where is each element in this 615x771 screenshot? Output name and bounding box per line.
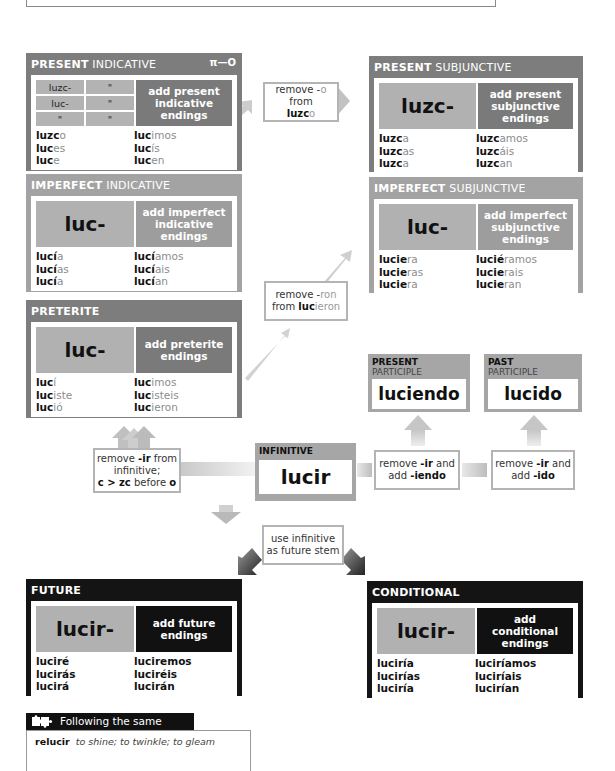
form-tu: luces	[36, 142, 134, 155]
endings-note: add preterite endings	[136, 327, 232, 373]
form-vosotros: lucíais	[134, 263, 232, 276]
form-tu: luzcas	[379, 145, 476, 158]
key-icon: π—O	[210, 57, 236, 68]
form-vosotros: lucierais	[476, 266, 573, 279]
imperfect-subjunctive-panel: IMPERFECT SUBJUNCTIVE luc- add imperfect…	[369, 177, 583, 293]
stem-cell: luc-	[36, 201, 134, 247]
infinitive-panel: INFINITIVE lucir	[255, 443, 356, 501]
puzzle-icon	[31, 715, 53, 728]
stem-cell: lucir-	[377, 608, 475, 654]
conjugation-forms: luzco luces luce lucimos lucís lucen	[36, 129, 232, 167]
form-ellos: lucieran	[476, 278, 573, 291]
form-yo: lucí	[36, 376, 134, 389]
preterite-title: PRETERITE	[31, 304, 237, 322]
stem-cell: lucir-	[36, 606, 134, 652]
form-yo: lucía	[36, 250, 134, 263]
form-nosotros: lucimos	[134, 376, 232, 389]
form-ellos: lucían	[134, 275, 232, 288]
imperfect-subjunctive-title: IMPERFECT SUBJUNCTIVE	[374, 181, 578, 199]
ditto-cell: "	[86, 80, 134, 94]
form-vosotros: lucís	[134, 142, 232, 155]
future-title: FUTURE	[31, 583, 237, 601]
rule-remove-o: remove -o from luzco	[263, 82, 339, 122]
form-ellos: luzcan	[476, 157, 573, 170]
conditional-panel: CONDITIONAL lucir- add conditional endin…	[367, 581, 583, 698]
stem-grid: luzc- " luc- " " "	[36, 80, 134, 126]
rule-future-stem: use infinitive as future stem	[262, 525, 344, 565]
conjugation-forms: luciría lucirías luciría luciríamos luci…	[377, 657, 573, 695]
ditto-cell: "	[86, 112, 134, 126]
ditto-cell: "	[36, 112, 84, 126]
form-nosotros: lucimos	[134, 129, 232, 142]
endings-note: add future endings	[136, 606, 232, 652]
form-yo: luzco	[36, 129, 134, 142]
present-indicative-title: PRESENT INDICATIVE	[31, 57, 237, 75]
form-vosotros: lucisteis	[134, 389, 232, 402]
present-indicative-panel: PRESENT INDICATIVE π—O luzc- " luc- " " …	[26, 53, 242, 171]
form-el: luciera	[379, 278, 476, 291]
form-el: lucía	[36, 275, 134, 288]
list-item: relucir to shine; to twinkle; to gleam	[35, 736, 242, 748]
form-nosotros: luciéramos	[476, 253, 573, 266]
endings-note: add present indicative endings	[136, 80, 232, 126]
rule-remove-ron: remove -ron from lucieron	[264, 281, 348, 321]
stem-cell: luzc-	[379, 83, 476, 129]
form-yo: luciera	[379, 253, 476, 266]
form-nosotros: lucíamos	[134, 250, 232, 263]
form-tu: lucieras	[379, 266, 476, 279]
endings-note: add imperfect indicative endings	[136, 201, 232, 247]
following-pattern-list: relucir to shine; to twinkle; to gleam	[26, 730, 251, 771]
conditional-title: CONDITIONAL	[372, 585, 578, 603]
following-pattern-header: Following the same pattern	[26, 713, 194, 730]
infinitive-word: lucir	[259, 460, 352, 494]
past-participle-panel: PAST PARTICIPLE lucido	[484, 354, 582, 412]
form-el: luce	[36, 154, 134, 167]
ditto-cell: "	[86, 96, 134, 110]
form-nosotros: luzcamos	[476, 132, 573, 145]
form-yo: luzca	[379, 132, 476, 145]
conjugation-forms: luciera lucieras luciera luciéramos luci…	[379, 253, 573, 291]
form-ellos: lucieron	[134, 401, 232, 414]
stem-cell: luc-	[379, 204, 476, 250]
imperfect-indicative-title: IMPERFECT INDICATIVE	[31, 178, 237, 196]
conjugation-forms: luzca luzcas luzca luzcamos luzcáis luzc…	[379, 132, 573, 170]
conjugation-forms: lucí luciste lució lucimos lucisteis luc…	[36, 376, 232, 414]
rule-remove-ir-zc: remove -ir from infinitive; c > zc befor…	[93, 448, 181, 493]
imperfect-indicative-panel: IMPERFECT INDICATIVE luc- add imperfect …	[26, 174, 242, 292]
rule-remove-ir-iendo: remove -ir and add -iendo	[374, 450, 460, 490]
endings-note: add conditional endings	[477, 608, 573, 654]
form-vosotros: luzcáis	[476, 145, 573, 158]
present-subjunctive-panel: PRESENT SUBJUNCTIVE luzc- add present su…	[369, 56, 583, 172]
present-participle-panel: PRESENT PARTICIPLE luciendo	[368, 354, 470, 412]
form-tu: luciste	[36, 389, 134, 402]
stem-cell: luzc-	[36, 80, 84, 94]
future-panel: FUTURE lucir- add future endings luciré …	[26, 579, 242, 696]
past-participle-word: lucido	[488, 379, 578, 409]
stem-cell: luc-	[36, 96, 84, 110]
present-subjunctive-title: PRESENT SUBJUNCTIVE	[374, 60, 578, 78]
endings-note: add imperfect subjunctive endings	[478, 204, 573, 250]
present-participle-word: luciendo	[372, 379, 466, 409]
stem-cell: luc-	[36, 327, 134, 373]
conjugation-forms: lucía lucías lucía lucíamos lucíais lucí…	[36, 250, 232, 288]
endings-note: add present subjunctive endings	[478, 83, 573, 129]
form-ellos: lucen	[134, 154, 232, 167]
form-el: luzca	[379, 157, 476, 170]
preterite-panel: PRETERITE luc- add preterite endings luc…	[26, 300, 242, 418]
conjugation-forms: luciré lucirás lucirá luciremos luciréis…	[36, 655, 232, 693]
rule-remove-ir-ido: remove -ir and add -ido	[491, 450, 575, 490]
form-tu: lucías	[36, 263, 134, 276]
form-el: lució	[36, 401, 134, 414]
